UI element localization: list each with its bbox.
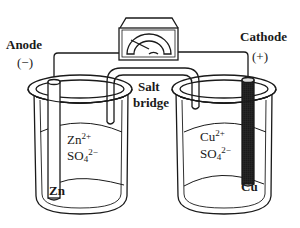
anode-label: Anode	[6, 38, 42, 51]
zn-electrode	[48, 80, 60, 201]
right-anion-base: SO	[200, 146, 217, 161]
cu-label: Cu	[241, 180, 258, 193]
salt-bridge-label-line1: Salt	[138, 80, 160, 93]
right-anion-charge: 2−	[221, 145, 231, 155]
anode-sign: (−)	[17, 56, 33, 69]
left-cation-charge: 2+	[81, 131, 91, 141]
left-cation: Zn2+	[67, 133, 91, 146]
left-cation-base: Zn	[67, 132, 81, 147]
cu-electrode	[242, 78, 254, 187]
cathode-sign: (+)	[252, 50, 268, 63]
right-cation-base: Cu	[200, 129, 215, 144]
zn-label: Zn	[49, 184, 65, 197]
left-anion: SO42−	[67, 149, 98, 162]
right-anion: SO42−	[200, 147, 231, 160]
right-cation-charge: 2+	[215, 128, 225, 138]
salt-bridge-label-line2: bridge	[133, 96, 169, 109]
voltmeter-icon	[119, 18, 178, 60]
cathode-label: Cathode	[240, 30, 287, 43]
right-cation: Cu2+	[200, 130, 225, 143]
left-anion-base: SO	[67, 148, 84, 163]
left-anion-charge: 2−	[88, 147, 98, 157]
